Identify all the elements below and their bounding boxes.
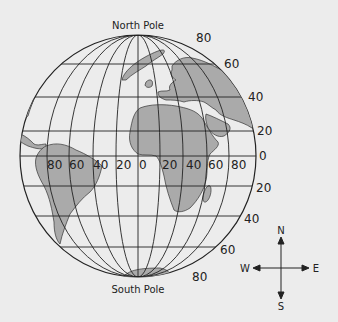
lon-label-40e: 40 — [186, 158, 201, 172]
lon-label-40w: 40 — [93, 158, 108, 172]
globe-diagram: North Pole South Pole 80 60 40 20 0 20 4… — [0, 0, 338, 322]
lon-label-0: 0 — [139, 158, 147, 172]
lon-label-60w: 60 — [69, 158, 84, 172]
south-pole-label: South Pole — [112, 284, 165, 295]
compass-s: S — [278, 301, 284, 312]
lat-label-20n: 20 — [257, 124, 272, 138]
lat-label-60n: 60 — [224, 57, 239, 71]
lon-label-80w: 80 — [47, 158, 62, 172]
lon-label-60e: 60 — [208, 158, 223, 172]
compass-n: N — [277, 225, 284, 236]
arrow-east-icon — [302, 265, 309, 271]
compass-rose — [253, 237, 309, 299]
lat-label-60s: 60 — [220, 243, 235, 257]
lon-label-20e: 20 — [162, 158, 177, 172]
lat-label-40s: 40 — [244, 212, 259, 226]
lat-label-80n: 80 — [196, 31, 211, 45]
lat-label-20s: 20 — [256, 181, 271, 195]
compass-e: E — [313, 263, 319, 274]
lat-label-equator: 0 — [259, 149, 267, 163]
arrow-south-icon — [278, 292, 284, 299]
arrow-north-icon — [278, 237, 284, 244]
lon-label-20w: 20 — [116, 158, 131, 172]
lon-label-80e: 80 — [231, 158, 246, 172]
compass-w: W — [240, 263, 250, 274]
lat-label-40n: 40 — [248, 90, 263, 104]
arrow-west-icon — [253, 265, 260, 271]
lat-label-80s: 80 — [192, 270, 207, 284]
north-pole-label: North Pole — [112, 20, 164, 31]
